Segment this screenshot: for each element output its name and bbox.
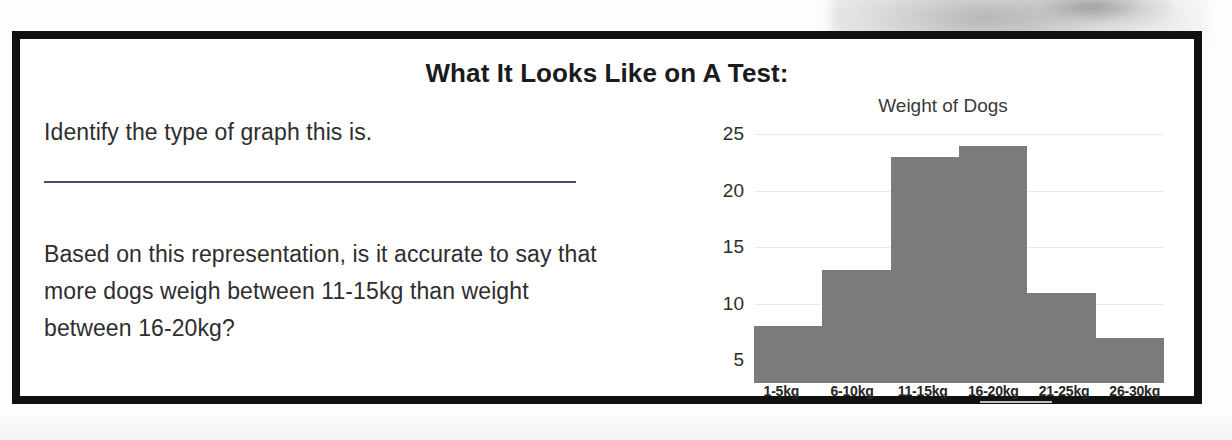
chart-bar bbox=[822, 270, 890, 383]
chart-bar bbox=[1096, 338, 1164, 383]
slide-frame: What It Looks Like on A Test: Identify t… bbox=[12, 31, 1202, 404]
chart-bar bbox=[959, 146, 1027, 383]
x-label-underline-artifact bbox=[980, 401, 1052, 403]
chart-bar bbox=[891, 157, 959, 383]
scan-bottom-shading bbox=[0, 416, 1232, 440]
chart-bar bbox=[1027, 293, 1095, 383]
chart-x-axis: 1-5kg6-10kg11-15kg16-20kg21-25kg26-30kg bbox=[746, 383, 1170, 399]
question-column: Identify the type of graph this is. Base… bbox=[44, 115, 634, 347]
page-title: What It Looks Like on A Test: bbox=[20, 58, 1194, 89]
chart-title: Weight of Dogs bbox=[778, 95, 1108, 117]
y-axis-tick-label: 5 bbox=[698, 349, 744, 371]
x-axis-tick-label: 21-25kg bbox=[1029, 383, 1100, 399]
y-axis-tick-label: 25 bbox=[698, 123, 744, 145]
chart-bar bbox=[754, 326, 822, 383]
chart-y-axis: 252015105 bbox=[698, 123, 744, 383]
x-axis-tick-label: 26-30kg bbox=[1099, 383, 1170, 399]
y-axis-tick-label: 10 bbox=[698, 293, 744, 315]
question-one: Identify the type of graph this is. bbox=[44, 115, 634, 149]
x-axis-tick-label: 6-10kg bbox=[817, 383, 888, 399]
answer-line bbox=[44, 181, 576, 183]
question-two: Based on this representation, is it accu… bbox=[44, 236, 604, 347]
scan-smudge-artifact-secondary bbox=[1020, 0, 1170, 24]
x-axis-tick-label: 16-20kg bbox=[958, 383, 1029, 399]
histogram-chart: Weight of Dogs 252015105 1-5kg6-10kg11-1… bbox=[668, 95, 1182, 387]
x-axis-tick-label: 1-5kg bbox=[746, 383, 817, 399]
y-axis-tick-label: 15 bbox=[698, 236, 744, 258]
scanned-page-background: What It Looks Like on A Test: Identify t… bbox=[0, 0, 1232, 440]
chart-bars bbox=[754, 123, 1164, 383]
y-axis-tick-label: 20 bbox=[698, 180, 744, 202]
slide-body: What It Looks Like on A Test: Identify t… bbox=[20, 39, 1194, 396]
chart-plot-area bbox=[754, 123, 1164, 383]
x-axis-tick-label: 11-15kg bbox=[887, 383, 958, 399]
